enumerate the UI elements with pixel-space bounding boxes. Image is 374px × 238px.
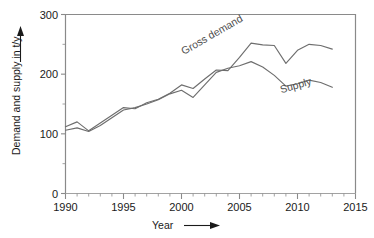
x-tick-label-2000: 2000 — [169, 201, 193, 213]
x-tick-label-2005: 2005 — [227, 201, 251, 213]
x-tick-label-2015: 2015 — [343, 201, 367, 213]
x-tick-label-1995: 1995 — [111, 201, 135, 213]
x-axis-title: Year — [152, 219, 174, 231]
y-tick-label-300: 300 — [40, 9, 58, 21]
y-tick-label-0: 0 — [52, 188, 58, 200]
x-tick-label-1990: 1990 — [53, 201, 77, 213]
y-tick-label-200: 200 — [40, 68, 58, 80]
y-tick-label-100: 100 — [40, 128, 58, 140]
y-axis-title-group: Demand and supply in t/y — [10, 26, 24, 155]
line-chart: 0100200300 199019952000200520102015 Gros… — [0, 0, 374, 238]
x-tick-label-2010: 2010 — [285, 201, 309, 213]
chart-canvas: 0100200300 199019952000200520102015 Gros… — [0, 0, 374, 238]
